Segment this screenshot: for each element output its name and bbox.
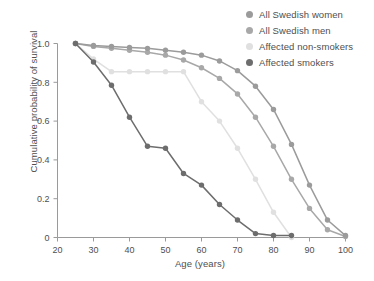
series-group [73,41,348,240]
chart-legend: All Swedish womenAll Swedish menAffected… [246,8,353,69]
data-point-marker [343,233,348,238]
x-tick-label: 100 [338,245,353,255]
legend-item-label: All Swedish men [259,24,331,37]
legend-item: Affected non-smokers [246,40,353,53]
x-tick-label: 80 [268,245,278,255]
data-point-marker [235,68,240,73]
legend-marker-dot-icon [246,43,253,50]
data-point-marker [163,48,168,53]
legend-marker-dot-icon [246,59,253,66]
legend-item: Affected smokers [246,56,353,69]
data-point-marker [217,76,222,81]
data-point-marker [271,210,276,215]
data-point-marker [235,146,240,151]
data-point-marker [199,52,204,57]
data-point-marker [91,43,96,48]
survival-chart-figure: 00.20.40.60.81.02030405060708090100 Cumu… [0,0,374,281]
data-point-marker [163,146,168,151]
axes-group [54,44,346,242]
data-point-marker [181,69,186,74]
legend-marker-dot-icon [246,27,253,34]
legend-item: All Swedish men [246,24,353,37]
data-point-marker [253,231,258,236]
data-point-marker [199,65,204,70]
legend-item-label: Affected non-smokers [259,40,353,53]
data-point-marker [181,50,186,55]
data-point-marker [253,115,258,120]
y-tick-label: 0.8 [37,78,50,88]
data-point-marker [109,69,114,74]
data-point-marker [235,91,240,96]
x-tick-label: 20 [52,245,62,255]
series-all-swedish-men [73,41,348,239]
data-point-marker [235,217,240,222]
data-point-marker [307,182,312,187]
legend-item-label: All Swedish women [259,8,343,21]
data-point-marker [163,69,168,74]
axis-spines [58,44,346,238]
data-point-marker [271,233,276,238]
data-point-marker [127,115,132,120]
data-point-marker [325,227,330,232]
x-tick-label: 70 [232,245,242,255]
x-tick-label: 90 [304,245,314,255]
data-point-marker [145,46,150,51]
data-point-marker [163,52,168,57]
x-tick-label: 30 [88,245,98,255]
legend-marker-dot-icon [246,11,253,18]
data-point-marker [127,45,132,50]
data-point-marker [217,202,222,207]
data-point-marker [127,69,132,74]
legend-item: All Swedish women [246,8,353,21]
y-tick-label: 0.6 [37,116,50,126]
series-line [76,44,346,237]
data-point-marker [181,171,186,176]
x-tick-label: 60 [196,245,206,255]
data-point-marker [289,142,294,147]
x-axis-label: Age (years) [120,258,280,269]
data-point-marker [145,144,150,149]
data-point-marker [181,57,186,62]
data-point-marker [91,59,96,64]
axis-tick-labels: 00.20.40.60.81.02030405060708090100 [37,39,353,255]
data-point-marker [253,83,258,88]
data-point-marker [289,177,294,182]
y-tick-label: 0.2 [37,194,50,204]
data-point-marker [289,233,294,238]
data-point-marker [145,69,150,74]
data-point-marker [271,107,276,112]
data-point-marker [109,44,114,49]
data-point-marker [73,41,78,46]
data-point-marker [325,217,330,222]
series-affected-non-smokers [73,41,294,240]
data-point-marker [199,182,204,187]
y-tick-label: 1.0 [37,39,50,49]
x-tick-label: 50 [160,245,170,255]
y-tick-label: 0 [44,233,49,243]
data-point-marker [199,99,204,104]
y-axis-label: Cumulative probability of survival [28,7,39,197]
data-point-marker [307,206,312,211]
data-point-marker [109,83,114,88]
y-tick-label: 0.4 [37,155,50,165]
data-point-marker [253,177,258,182]
x-tick-label: 40 [124,245,134,255]
data-point-marker [217,118,222,123]
data-point-marker [271,144,276,149]
legend-item-label: Affected smokers [259,56,334,69]
data-point-marker [217,58,222,63]
